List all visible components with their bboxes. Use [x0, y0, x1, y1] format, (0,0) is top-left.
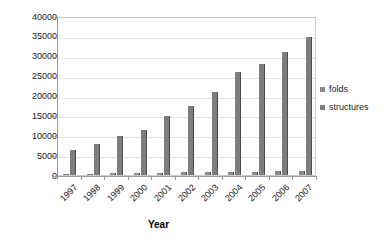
x-axis-tick-mark — [245, 177, 246, 180]
legend-item-structures[interactable]: structures — [320, 103, 369, 112]
legend-label: structures — [329, 103, 369, 112]
x-axis-title: Year — [0, 219, 317, 230]
y-axis-tick-label: 10000 — [11, 132, 57, 141]
x-axis-tick-mark — [151, 177, 152, 180]
x-axis-tick-mark — [269, 177, 270, 180]
y-axis-tick-label: 5000 — [11, 152, 57, 161]
x-axis-tick-label: 2004 — [219, 183, 244, 208]
bar-folds-1997 — [63, 174, 69, 175]
x-axis-tick-mark — [198, 177, 199, 180]
bar-folds-2004 — [228, 172, 234, 175]
bar-group — [110, 16, 123, 175]
y-axis-tick-label: 25000 — [11, 72, 57, 81]
bar-chart: 4000035000300002500020000150001000050000… — [0, 0, 387, 240]
bar-structures-1998 — [94, 144, 100, 175]
bar-folds-2001 — [157, 173, 163, 175]
bar-group — [87, 16, 100, 175]
y-axis-tick-label: 0 — [11, 172, 57, 181]
bar-group — [205, 16, 218, 175]
bar-folds-1999 — [110, 173, 116, 175]
x-axis-tick-label: 2005 — [243, 183, 268, 208]
bar-structures-1999 — [117, 136, 123, 175]
y-axis-tick-mark — [54, 136, 57, 137]
bar-structures-2002 — [188, 106, 194, 175]
x-axis-tick-mark — [57, 177, 58, 180]
bar-folds-1998 — [87, 174, 93, 175]
x-axis-tick-mark — [292, 177, 293, 180]
x-axis-tick-mark — [222, 177, 223, 180]
legend-item-folds[interactable]: folds — [320, 85, 369, 94]
x-axis-tick-mark — [128, 177, 129, 180]
y-axis-tick-mark — [54, 97, 57, 98]
bar-folds-2007 — [299, 171, 305, 175]
bar-structures-2004 — [235, 72, 241, 175]
y-axis-tick-mark — [54, 57, 57, 58]
bar-group — [252, 16, 265, 175]
x-axis-tick-mark — [175, 177, 176, 180]
y-axis-line — [57, 17, 58, 177]
y-axis-tick-mark — [54, 77, 57, 78]
bar-structures-2001 — [164, 116, 170, 175]
bar-group — [299, 16, 312, 175]
bar-folds-2000 — [134, 173, 140, 175]
x-axis-tick-label: 2007 — [290, 183, 315, 208]
bar-structures-2007 — [306, 37, 312, 175]
bar-structures-2003 — [212, 92, 218, 175]
bar-structures-1997 — [70, 150, 76, 175]
x-axis-tick-label: 1997 — [54, 183, 79, 208]
legend-swatch-icon — [320, 105, 325, 110]
bar-folds-2006 — [275, 171, 281, 175]
y-axis-tick-mark — [54, 37, 57, 38]
bar-group — [134, 16, 147, 175]
y-axis-tick-label: 40000 — [11, 13, 57, 22]
bar-group — [181, 16, 194, 175]
legend-swatch-icon — [320, 87, 325, 92]
bar-group — [63, 16, 76, 175]
y-axis-tick-label: 15000 — [11, 112, 57, 121]
y-axis-tick-mark — [54, 116, 57, 117]
x-axis-tick-label: 2000 — [125, 183, 150, 208]
bar-group — [157, 16, 170, 175]
bar-folds-2002 — [181, 172, 187, 175]
x-axis-tick-label: 1999 — [101, 183, 126, 208]
x-axis-tick-mark — [316, 177, 317, 180]
bar-structures-2005 — [259, 64, 265, 175]
legend: foldsstructures — [320, 85, 369, 121]
x-axis-tick-mark — [104, 177, 105, 180]
x-axis-tick-label: 2006 — [266, 183, 291, 208]
x-axis-tick-label: 2002 — [172, 183, 197, 208]
bar-folds-2005 — [252, 172, 258, 175]
bar-group — [275, 16, 288, 175]
bar-folds-2003 — [205, 172, 211, 175]
x-axis-line — [57, 176, 317, 177]
y-axis-tick-mark — [54, 156, 57, 157]
x-axis-tick-label: 2003 — [196, 183, 221, 208]
y-axis-tick-label: 30000 — [11, 52, 57, 61]
y-axis-tick-label: 20000 — [11, 92, 57, 101]
bar-structures-2006 — [282, 52, 288, 175]
x-axis-tick-mark — [81, 177, 82, 180]
bar-structures-2000 — [141, 130, 147, 175]
plot-area — [57, 17, 316, 176]
x-axis-tick-label: 1998 — [78, 183, 103, 208]
x-axis-tick-label: 2001 — [149, 183, 174, 208]
bar-group — [228, 16, 241, 175]
y-axis-tick-label: 35000 — [11, 32, 57, 41]
y-axis-tick-mark — [54, 17, 57, 18]
legend-label: folds — [329, 85, 348, 94]
